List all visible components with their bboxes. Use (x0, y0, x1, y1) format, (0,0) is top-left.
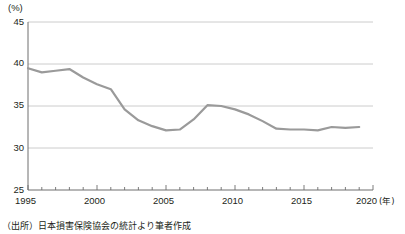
chart-figure: (%) 45 40 35 30 25 (0, 0, 405, 234)
x-axis-tick-2000: 2000 (84, 196, 105, 206)
x-axis-ticks (28, 185, 373, 190)
plot-area (0, 0, 405, 234)
x-axis-unit-label: (年) (379, 196, 395, 206)
y-axis-unit-label: (%) (8, 2, 23, 13)
x-axis-tick-2020: 2020 (356, 196, 377, 206)
x-axis-tick-1995: 1995 (15, 196, 36, 206)
x-axis-tick-2010: 2010 (222, 196, 243, 206)
y-axis-tick-25: 25 (2, 185, 24, 195)
data-series-line (28, 68, 359, 130)
y-axis-tick-30: 30 (2, 143, 24, 153)
source-note: （出所）日本損害保険協会の統計より筆者作成 (2, 219, 191, 232)
y-axis-tick-45: 45 (2, 17, 24, 27)
y-axis-tick-40: 40 (2, 58, 24, 68)
y-axis-tick-35: 35 (2, 100, 24, 110)
x-axis-tick-2015: 2015 (291, 196, 312, 206)
x-axis-tick-2005: 2005 (153, 196, 174, 206)
